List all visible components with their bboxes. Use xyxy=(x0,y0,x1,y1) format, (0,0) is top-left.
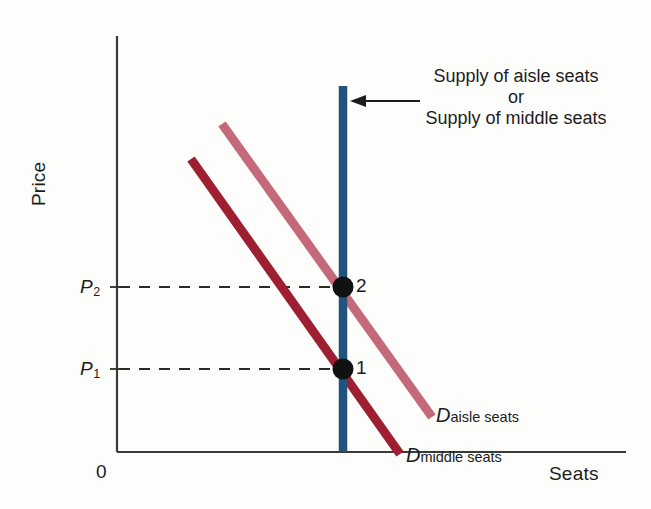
demand-label-middle-subscript: middle seats xyxy=(420,449,501,465)
demand-label-middle-letter: D xyxy=(406,444,420,466)
demand-label-aisle-letter: D xyxy=(436,404,450,426)
price-label-p1-letter: P xyxy=(80,358,93,379)
supply-annotation-line-2: or xyxy=(391,87,641,108)
price-label-p1-subscript: 1 xyxy=(93,367,100,381)
demand-curve-aisle-seats xyxy=(222,124,432,417)
demand-curve-middle-seats xyxy=(191,159,400,454)
equilibrium-point-2 xyxy=(333,277,354,298)
demand-curve-label-aisle-seats: Daisle seats xyxy=(436,404,519,428)
demand-curve-label-middle-seats: Dmiddle seats xyxy=(406,444,502,468)
supply-annotation-arrow-head xyxy=(350,95,366,107)
equilibrium-point-1 xyxy=(333,359,354,380)
price-label-p2-subscript: 2 xyxy=(93,285,100,299)
equilibrium-point-label-2: 2 xyxy=(356,275,367,297)
equilibrium-point-label-1: 1 xyxy=(356,357,367,379)
y-axis-title: Price xyxy=(28,162,50,206)
origin-label: 0 xyxy=(96,461,107,483)
supply-annotation-line-1: Supply of aisle seats xyxy=(391,66,641,87)
supply-demand-figure: Price Seats 0 P2 P1 2 1 Supply of aisle … xyxy=(0,0,651,509)
demand-label-aisle-subscript: aisle seats xyxy=(450,409,519,425)
price-label-p2-letter: P xyxy=(80,276,93,297)
x-axis-title: Seats xyxy=(549,463,599,485)
price-label-p1: P1 xyxy=(80,358,100,380)
supply-annotation-line-3: Supply of middle seats xyxy=(391,108,641,129)
price-label-p2: P2 xyxy=(80,276,100,298)
supply-annotation-text: Supply of aisle seats or Supply of middl… xyxy=(391,66,641,130)
